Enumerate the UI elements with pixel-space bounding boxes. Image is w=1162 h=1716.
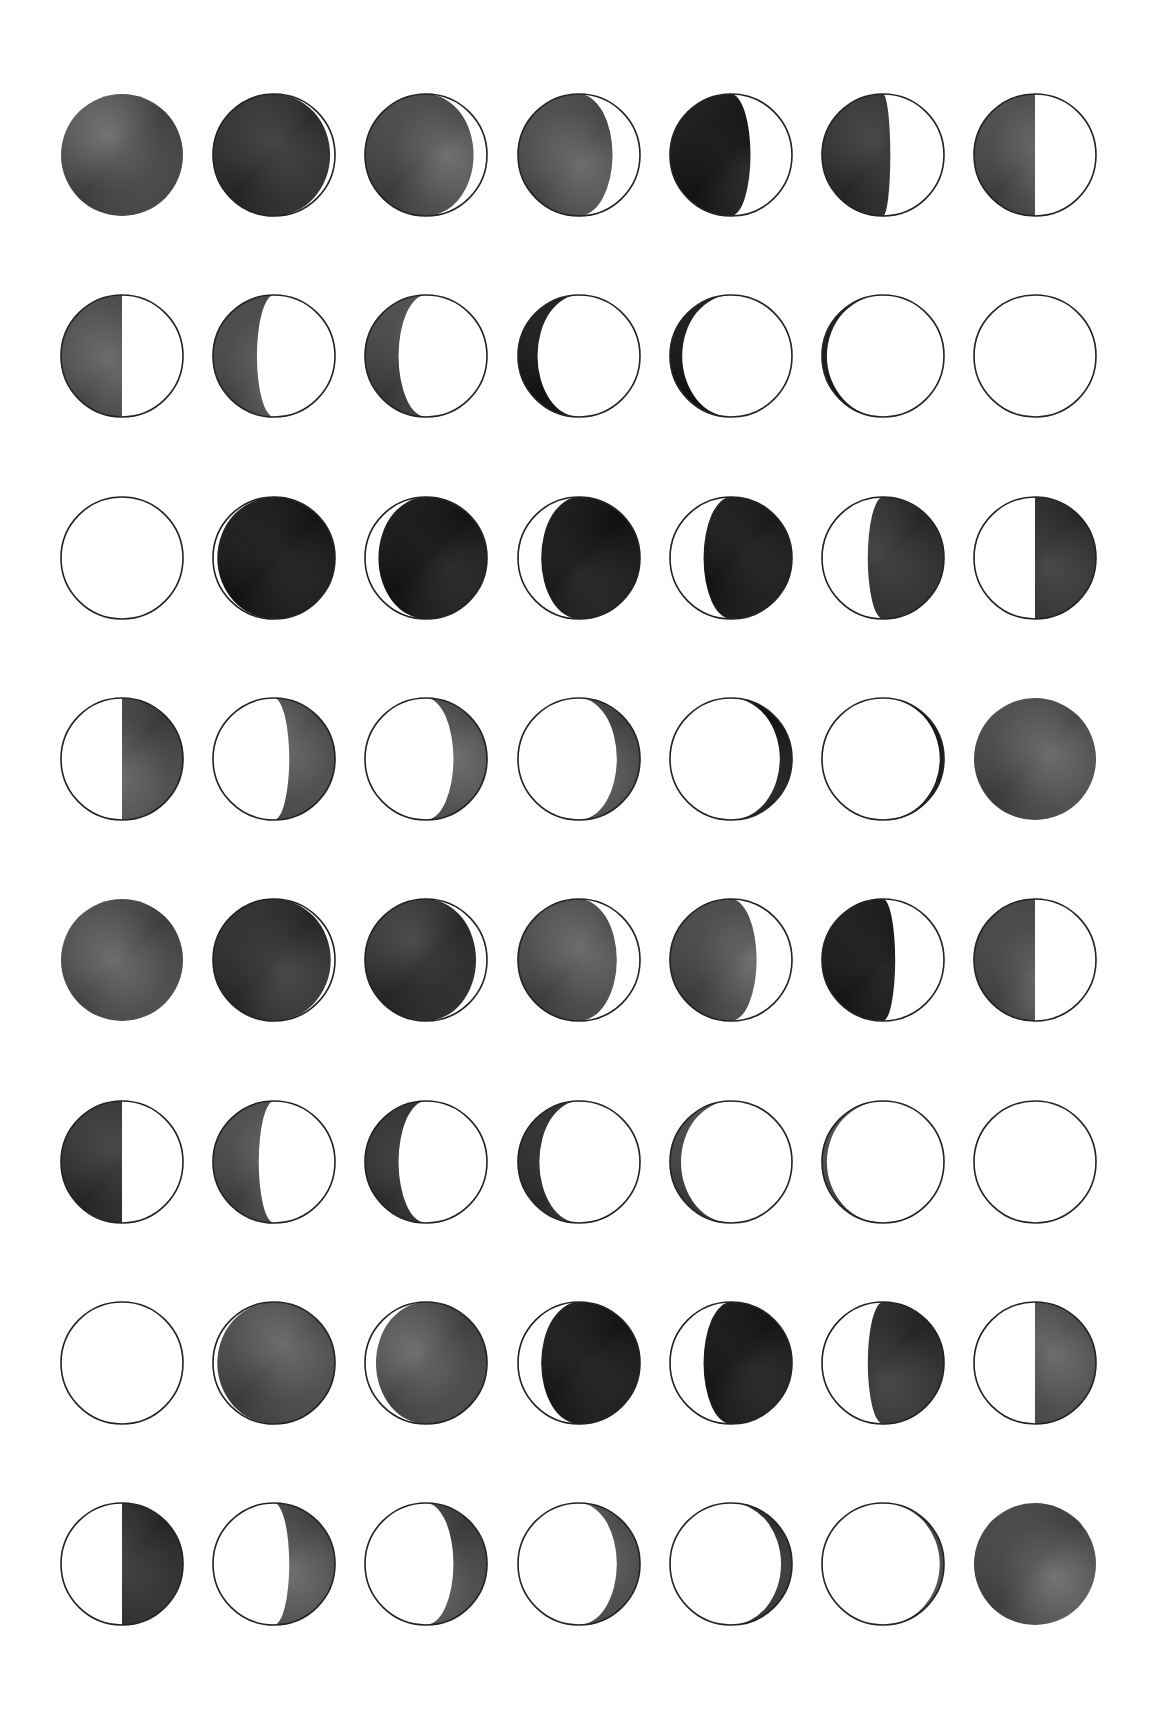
moon-phase-icon bbox=[59, 897, 185, 1023]
moon-phase-icon bbox=[59, 696, 185, 822]
moon-phase-icon bbox=[211, 1501, 337, 1627]
moon-phase-icon bbox=[668, 293, 794, 419]
moon-phase-icon bbox=[972, 293, 1098, 419]
moon-phase-icon bbox=[668, 1501, 794, 1627]
moon-phase-icon bbox=[211, 696, 337, 822]
moon-phase-icon bbox=[516, 897, 642, 1023]
moon-phase-icon bbox=[516, 1300, 642, 1426]
moon-phase-icon bbox=[820, 1501, 946, 1627]
moon-phase-icon bbox=[516, 293, 642, 419]
moon-phase-icon bbox=[211, 1300, 337, 1426]
moon-phase-icon bbox=[363, 495, 489, 621]
moon-phase-icon bbox=[516, 1099, 642, 1225]
moon-phase-icon bbox=[363, 1501, 489, 1627]
moon-phase-icon bbox=[820, 1300, 946, 1426]
moon-phase-icon bbox=[363, 897, 489, 1023]
moon-phase-icon bbox=[668, 1300, 794, 1426]
moon-phase-icon bbox=[668, 696, 794, 822]
moon-phase-icon bbox=[972, 1501, 1098, 1627]
moon-phase-icon bbox=[59, 1501, 185, 1627]
moon-phase-icon bbox=[972, 897, 1098, 1023]
moon-phase-icon bbox=[516, 1501, 642, 1627]
moon-phase-icon bbox=[59, 1300, 185, 1426]
moon-phase-icon bbox=[59, 1099, 185, 1225]
moon-phase-icon bbox=[972, 1300, 1098, 1426]
moon-phase-icon bbox=[972, 495, 1098, 621]
moon-phase-icon bbox=[668, 897, 794, 1023]
moon-phase-icon bbox=[820, 495, 946, 621]
moon-phase-icon bbox=[972, 92, 1098, 218]
moon-phase-icon bbox=[820, 293, 946, 419]
moon-phase-icon bbox=[668, 1099, 794, 1225]
moon-phase-icon bbox=[820, 92, 946, 218]
moon-phase-icon bbox=[363, 293, 489, 419]
moon-phase-icon bbox=[820, 696, 946, 822]
moon-phase-icon bbox=[972, 696, 1098, 822]
moon-phase-icon bbox=[820, 897, 946, 1023]
moon-phase-icon bbox=[211, 495, 337, 621]
moon-phase-icon bbox=[211, 92, 337, 218]
moon-phase-icon bbox=[363, 92, 489, 218]
moon-phase-icon bbox=[363, 1300, 489, 1426]
moon-phase-icon bbox=[972, 1099, 1098, 1225]
moon-phase-icon bbox=[516, 696, 642, 822]
moon-phase-icon bbox=[59, 92, 185, 218]
moon-phase-icon bbox=[516, 495, 642, 621]
moon-phase-icon bbox=[59, 495, 185, 621]
moon-phase-icon bbox=[363, 696, 489, 822]
moon-phase-icon bbox=[363, 1099, 489, 1225]
moon-phase-icon bbox=[668, 495, 794, 621]
moon-phase-icon bbox=[211, 897, 337, 1023]
moon-phase-icon bbox=[211, 293, 337, 419]
moon-phase-icon bbox=[668, 92, 794, 218]
moon-phase-icon bbox=[59, 293, 185, 419]
moon-phase-grid bbox=[0, 0, 1162, 1716]
moon-phase-icon bbox=[211, 1099, 337, 1225]
moon-phase-icon bbox=[820, 1099, 946, 1225]
moon-phase-icon bbox=[516, 92, 642, 218]
